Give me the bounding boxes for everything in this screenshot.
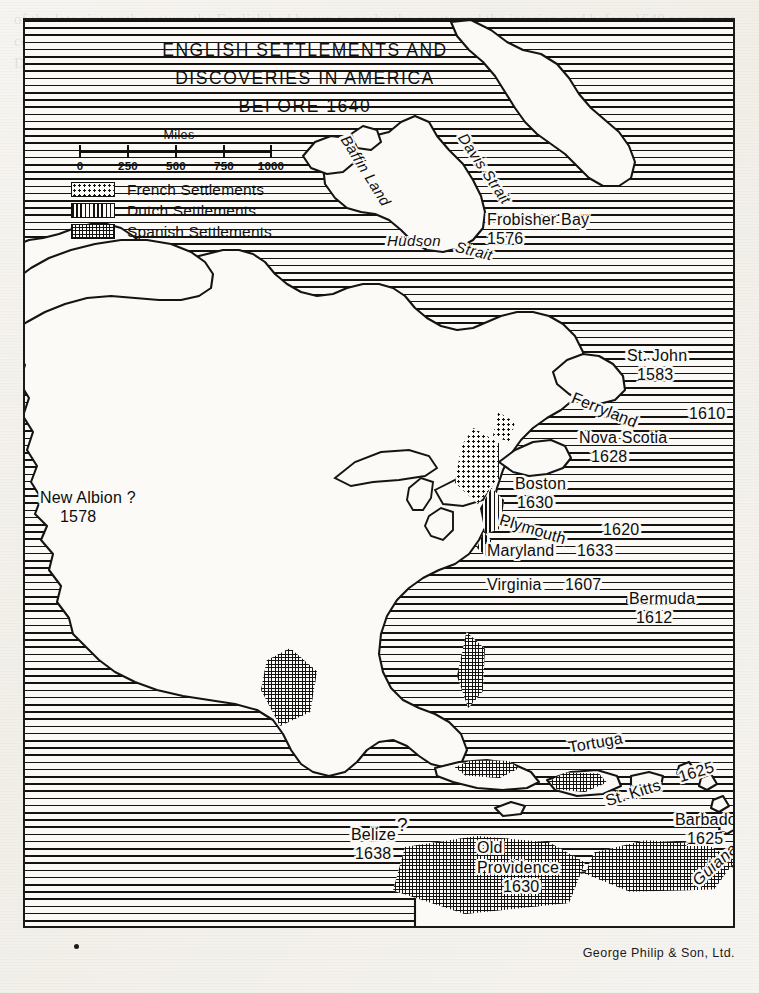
scale-ruler (71, 145, 301, 159)
scale-tick-500 (175, 145, 177, 158)
label-bermuda: Bermuda (629, 589, 695, 608)
title-line-1: ENGLISH SETTLEMENTS AND (25, 36, 585, 64)
dutch-pattern-swatch (71, 203, 115, 218)
map-legend: French Settlements Dutch Settlements Spa… (71, 180, 272, 243)
scale-label-1000: 1000 (258, 160, 284, 172)
legend-label-dutch: Dutch Settlements (127, 202, 256, 220)
label-maryland: Maryland (487, 541, 554, 560)
title-line-3: BEFORE 1640 (25, 92, 585, 120)
label-boston: Boston (515, 474, 566, 493)
title-line-2: DISCOVERIES IN AMERICA (25, 64, 585, 92)
label-virginia: Virginia (487, 575, 542, 594)
legend-item-french: French Settlements (71, 180, 272, 199)
scale-bar: Miles 0 250 500 750 1000 (71, 128, 301, 175)
scale-label-750: 750 (214, 160, 234, 172)
label-st-john: St. John (627, 346, 687, 365)
label-barbados: Barbados (675, 810, 735, 829)
scale-label-250: 250 (118, 160, 138, 172)
scale-tick-0 (79, 145, 81, 158)
label-ferryland-year: 1610 (689, 404, 725, 423)
label-barbados-year: 1625 (687, 829, 723, 848)
label-belize: Belize (351, 825, 396, 844)
map-title: ENGLISH SETTLEMENTS AND DISCOVERIES IN A… (25, 36, 585, 120)
label-belize-year: 1638 (355, 844, 391, 863)
label-new-albion-year: 1578 (60, 507, 96, 526)
label-nova-scotia-year: 1628 (591, 447, 627, 466)
french-pattern-swatch (71, 182, 115, 197)
scale-label-500: 500 (166, 160, 186, 172)
scale-tick-labels: 0 250 500 750 1000 (71, 160, 301, 175)
label-old-providence: OldProvidence (477, 838, 559, 878)
legend-item-dutch: Dutch Settlements (71, 201, 272, 220)
label-nova-scotia: Nova Scotia (579, 428, 667, 447)
label-plymouth-year: 1620 (603, 520, 639, 539)
scale-tick-750 (223, 145, 225, 158)
scale-tick-250 (127, 145, 129, 158)
label-hudson: Hudson (387, 232, 441, 249)
label-frobisher-bay: Frobisher Bay (487, 210, 589, 229)
scale-tick-1000 (270, 145, 272, 158)
publisher-credit: George Philip & Son, Ltd. (583, 946, 735, 960)
label-boston-year: 1630 (517, 493, 553, 512)
printer-registration-dot (74, 944, 79, 949)
scale-label-0: 0 (77, 160, 84, 172)
label-virginia-year: 1607 (565, 575, 601, 594)
map-frame: ENGLISH SETTLEMENTS AND DISCOVERIES IN A… (23, 18, 735, 928)
label-old-providence-text: OldProvidence (477, 839, 559, 876)
legend-label-spanish: Spanish Settlements (127, 223, 272, 241)
legend-item-spanish: Spanish Settlements (71, 222, 272, 241)
spanish-pattern-swatch (71, 224, 115, 239)
label-old-providence-year: 1630 (503, 877, 539, 896)
legend-label-french: French Settlements (127, 181, 264, 199)
label-maryland-year: 1633 (577, 541, 613, 560)
label-st-john-year: 1583 (637, 365, 673, 384)
label-belize-marker: ? (397, 815, 408, 834)
label-new-albion: New Albion ? (40, 488, 136, 507)
label-frobisher-bay-year: 1576 (487, 229, 523, 248)
label-bermuda-year: 1612 (636, 608, 672, 627)
scale-caption: Miles (57, 128, 301, 142)
